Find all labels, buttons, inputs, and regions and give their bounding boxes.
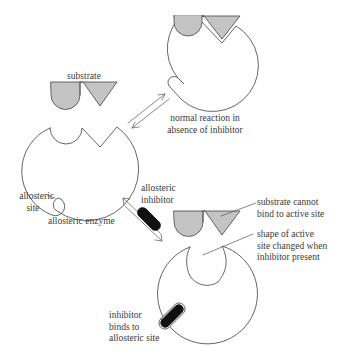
label-shape-changed: shape of active site changed when inhibi… [257, 229, 327, 264]
label-inhibitor-binds-line1: inhibitor [109, 310, 159, 322]
label-shape-changed-line2: site changed when [257, 241, 327, 253]
enzyme-body-bottom [157, 246, 257, 344]
label-cannot-bind-line2: bind to active site [257, 209, 324, 221]
label-cannot-bind: substrate cannot bind to active site [257, 197, 324, 220]
allosteric-inhibition-diagram: substrate normal reaction in absence of … [0, 0, 345, 355]
label-allosteric-site: allosteric site [6, 191, 54, 214]
label-allosteric-inhibitor: allosteric inhibitor [141, 183, 176, 206]
label-normal-reaction-line2: absence of inhibitor [160, 125, 250, 137]
label-allosteric-inhibitor-line1: allosteric [141, 183, 176, 195]
label-inhibitor-binds-line2: binds to [109, 322, 159, 334]
label-normal-reaction-line1: normal reaction in [160, 113, 250, 125]
label-allosteric-enzyme: allosteric enzyme [48, 216, 115, 228]
diagram-canvas [0, 0, 345, 355]
label-allosteric-site-line2: site [6, 203, 54, 215]
label-cannot-bind-line1: substrate cannot [257, 197, 324, 209]
label-shape-changed-line1: shape of active [257, 229, 327, 241]
label-allosteric-site-line1: allosteric [6, 191, 54, 203]
label-shape-changed-line3: inhibitor present [257, 252, 327, 264]
label-substrate: substrate [60, 71, 108, 83]
label-inhibitor-binds-line3: allosteric site [109, 333, 159, 345]
substrate-shape [51, 82, 117, 110]
label-normal-reaction: normal reaction in absence of inhibitor [160, 113, 250, 136]
blocked-substrate [174, 211, 240, 237]
enzyme-substrate-complex [167, 16, 258, 112]
inhibited-enzyme [156, 246, 257, 344]
label-allosteric-inhibitor-line2: inhibitor [141, 195, 176, 207]
label-inhibitor-binds: inhibitor binds to allosteric site [109, 310, 159, 345]
